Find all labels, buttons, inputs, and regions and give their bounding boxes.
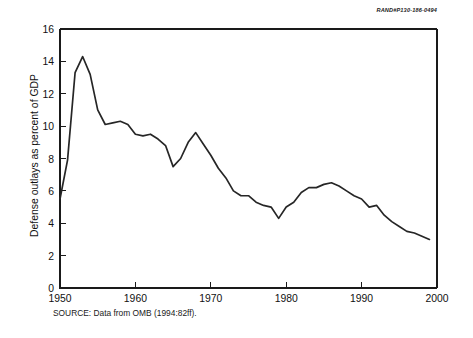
document-number-label: RAND#P130-186-0494: [376, 7, 437, 13]
chart-figure: RAND#P130-186-0494 Defense outlays as pe…: [0, 0, 473, 338]
x-axis-tick-label: 1960: [124, 293, 147, 304]
defense-outlays-line: [60, 57, 429, 240]
x-axis-tick-label: 1980: [275, 293, 298, 304]
y-axis-tick-label: 16: [26, 24, 54, 35]
y-axis-tick-label: 10: [26, 121, 54, 132]
y-axis-tick-label: 12: [26, 88, 54, 99]
y-axis-tick-label: 4: [26, 218, 54, 229]
y-axis-tick-label: 6: [26, 185, 54, 196]
y-axis-tick-label: 8: [26, 153, 54, 164]
x-axis-tick-label: 1950: [48, 293, 71, 304]
y-axis-tick-label: 0: [26, 283, 54, 294]
y-axis-tick-label: 14: [26, 56, 54, 67]
source-note: SOURCE: Data from OMB (1994:82ff).: [53, 308, 197, 318]
x-axis-tick-label: 1970: [199, 293, 222, 304]
line-chart-plot: [0, 0, 473, 338]
y-axis-tick-label: 2: [26, 250, 54, 261]
x-axis-tick-label: 2000: [425, 293, 448, 304]
chart-axes: [60, 29, 437, 288]
axis-frame: [60, 29, 437, 288]
x-axis-tick-label: 1990: [350, 293, 373, 304]
y-axis-ticks: [60, 29, 66, 288]
x-axis-ticks: [60, 282, 437, 288]
